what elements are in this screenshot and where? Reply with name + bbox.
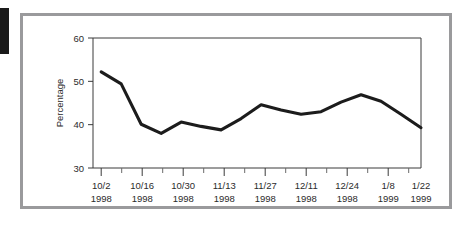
y-tick-label-40: 40: [73, 119, 84, 130]
figure-frame: 30 40 50 60 Percentage: [20, 13, 452, 209]
y-axis-title: Percentage: [54, 79, 65, 128]
chart-svg: 30 40 50 60 Percentage: [23, 16, 455, 212]
x-axis-tick-labels: 10/2 1998 10/16 1998 10/30 1998 11/13 19…: [91, 180, 432, 204]
x-tick-label-year-5: 1998: [296, 193, 317, 204]
x-tick-label-year-0: 1998: [91, 193, 112, 204]
x-tick-label-date-5: 12/11: [295, 180, 318, 191]
x-tick-label-year-3: 1998: [214, 193, 235, 204]
x-tick-label-date-4: 11/27: [254, 180, 277, 191]
x-tick-label-date-1: 10/16: [130, 180, 154, 191]
page-edge-marker: [0, 8, 9, 54]
x-tick-label-date-7: 1/8: [382, 180, 395, 191]
x-tick-label-date-3: 11/13: [213, 180, 236, 191]
x-tick-label-date-0: 10/2: [92, 180, 111, 191]
y-tick-label-50: 50: [73, 76, 84, 87]
x-axis-ticks: [101, 168, 409, 176]
x-tick-label-year-8: 1999: [410, 193, 431, 204]
y-axis-tick-labels: 30 40 50 60: [73, 33, 84, 174]
x-tick-label-year-6: 1998: [337, 193, 358, 204]
x-tick-label-year-1: 1998: [132, 193, 153, 204]
x-tick-label-date-6: 12/24: [335, 180, 359, 191]
x-tick-label-year-4: 1998: [255, 193, 276, 204]
y-tick-label-60: 60: [73, 33, 84, 44]
x-tick-label-year-2: 1998: [173, 193, 194, 204]
x-tick-label-date-2: 10/30: [171, 180, 195, 191]
x-tick-label-date-8: 1/22: [412, 180, 431, 191]
y-axis-ticks: [88, 38, 93, 168]
plot-axes: [93, 38, 421, 168]
y-tick-label-30: 30: [73, 163, 84, 174]
data-series-line: [101, 72, 421, 134]
plot-frame-top-right: [93, 38, 421, 168]
line-chart: 30 40 50 60 Percentage: [23, 16, 455, 212]
x-tick-label-year-7: 1999: [378, 193, 399, 204]
